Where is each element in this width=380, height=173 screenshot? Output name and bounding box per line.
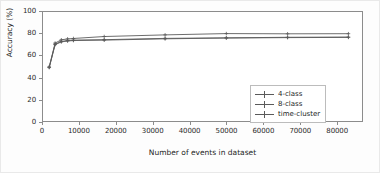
x-tick-label: 30000 <box>142 127 164 135</box>
y-tick-label: 80 <box>0 29 36 37</box>
y-tick-label: 0 <box>0 118 36 126</box>
legend-item: 8-class <box>255 99 320 109</box>
legend-item: time-cluster <box>255 109 320 119</box>
y-tick-mark <box>39 78 42 79</box>
legend-item: 4-class <box>255 89 320 99</box>
y-tick-mark <box>39 33 42 34</box>
x-tick-label: 20000 <box>105 127 127 135</box>
legend-item-label: time-cluster <box>278 110 320 119</box>
x-tick-mark <box>42 122 43 125</box>
x-tick-mark <box>153 122 154 125</box>
x-tick-mark <box>226 122 227 125</box>
x-tick-mark <box>116 122 117 125</box>
x-tick-label: 80000 <box>326 127 348 135</box>
legend-line-marker-icon <box>255 100 274 109</box>
x-tick-label: 60000 <box>252 127 274 135</box>
x-axis-label: Number of events in dataset <box>42 148 363 157</box>
y-tick-mark <box>39 55 42 56</box>
x-tick-label: 10000 <box>68 127 90 135</box>
data-point-marker <box>47 65 51 69</box>
series-line <box>49 37 348 67</box>
legend-line-marker-icon <box>255 90 274 99</box>
x-tick-label: 70000 <box>289 127 311 135</box>
chart-figure: Accuracy (%) 020406080100 01000020000300… <box>0 0 380 173</box>
y-tick-label: 20 <box>0 96 36 104</box>
y-tick-mark <box>39 100 42 101</box>
y-tick-label: 60 <box>0 51 36 59</box>
y-tick-mark <box>39 11 42 12</box>
chart-legend: 4-class 8-class time-cluster <box>250 85 326 123</box>
legend-line-marker-icon <box>255 110 274 119</box>
data-point-marker <box>347 32 351 36</box>
data-point-marker <box>225 32 229 36</box>
data-point-marker <box>102 38 106 42</box>
y-tick-label: 40 <box>0 74 36 82</box>
data-point-marker <box>102 35 106 39</box>
legend-item-label: 4-class <box>278 90 302 99</box>
x-tick-label: 50000 <box>216 127 238 135</box>
data-point-marker <box>347 36 351 40</box>
data-point-marker <box>225 36 229 40</box>
x-tick-label: 0 <box>40 127 44 135</box>
x-tick-label: 40000 <box>179 127 201 135</box>
legend-item-label: 8-class <box>278 100 302 109</box>
y-tick-label: 100 <box>0 7 36 15</box>
x-tick-mark <box>190 122 191 125</box>
x-tick-mark <box>79 122 80 125</box>
series-line <box>49 37 348 67</box>
x-tick-mark <box>337 122 338 125</box>
data-point-marker <box>286 32 290 36</box>
data-point-marker <box>163 33 167 37</box>
data-point-marker <box>286 36 290 40</box>
data-point-marker <box>163 37 167 41</box>
